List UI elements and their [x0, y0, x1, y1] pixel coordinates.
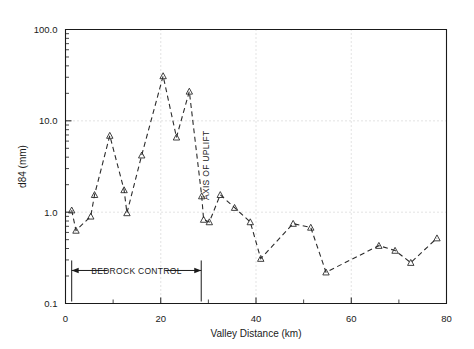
- y-axis-title: d84 (mm): [17, 145, 28, 188]
- bedrock-right-arrow: [194, 268, 201, 274]
- x-tick-label: 20: [155, 313, 166, 324]
- data-point-marker: [200, 216, 206, 222]
- bedrock-control-label: BEDROCK CONTROL: [91, 266, 181, 276]
- y-tick-label: 100.0: [34, 24, 58, 35]
- x-tick-label: 60: [346, 313, 357, 324]
- data-point-marker: [217, 192, 223, 198]
- data-point-marker: [139, 152, 145, 158]
- x-tick-label: 40: [251, 313, 262, 324]
- data-point-marker: [124, 210, 130, 216]
- data-point-marker: [308, 224, 314, 230]
- series-line-0: [72, 76, 437, 272]
- axis-of-uplift-label: AXIS OF UPLIFT: [201, 131, 211, 200]
- x-tick-label: 0: [63, 313, 68, 324]
- x-axis-title: Valley Distance (km): [211, 328, 302, 339]
- y-tick-label: 1.0: [44, 207, 57, 218]
- bedrock-left-arrow: [72, 268, 79, 274]
- figure-container: 0.11.010.0100.0020406080Valley Distance …: [0, 0, 474, 349]
- data-point-marker: [434, 235, 440, 241]
- data-point-marker: [88, 213, 94, 219]
- y-tick-label: 0.1: [44, 298, 57, 309]
- chart-svg: 0.11.010.0100.0020406080Valley Distance …: [0, 0, 474, 349]
- x-tick-label: 80: [441, 313, 452, 324]
- y-tick-label: 10.0: [39, 115, 58, 126]
- data-point-marker: [290, 220, 296, 226]
